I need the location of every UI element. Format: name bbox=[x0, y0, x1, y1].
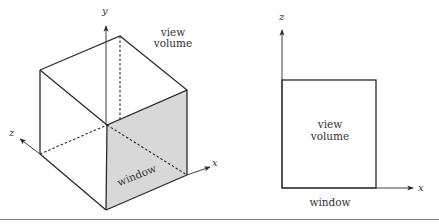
view-volume-label-2d-line1: view bbox=[317, 118, 343, 130]
diagram-canvas: y z x view volume window z x view volume… bbox=[0, 0, 439, 224]
top-view-figure: z x view volume window bbox=[278, 11, 424, 208]
view-volume-label-line2: volume bbox=[153, 37, 193, 49]
x-axis-label: x bbox=[212, 157, 218, 168]
z-axis-label-2d: z bbox=[278, 11, 285, 22]
hidden-edge-z bbox=[40, 125, 107, 154]
z-axis-label: z bbox=[8, 127, 15, 138]
z-axis bbox=[20, 139, 40, 154]
cube-bottom-left-edge bbox=[40, 154, 106, 210]
y-axis-label: y bbox=[101, 5, 108, 16]
window-label-2d: window bbox=[309, 196, 350, 208]
cube-figure: y z x view volume window bbox=[8, 5, 218, 210]
view-volume-label-2d-line2: volume bbox=[310, 130, 350, 142]
x-axis-label-2d: x bbox=[418, 182, 424, 193]
x-axis bbox=[187, 167, 210, 175]
